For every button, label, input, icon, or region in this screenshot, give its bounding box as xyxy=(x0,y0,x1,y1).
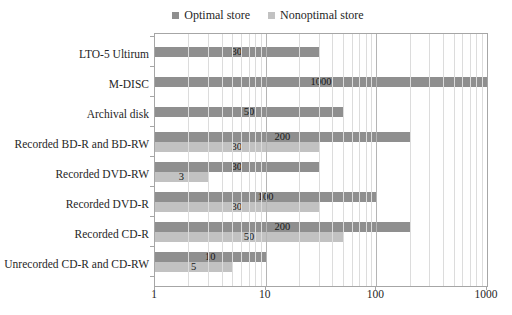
y-tick-mark xyxy=(150,276,154,277)
y-tick-mark xyxy=(150,66,154,67)
y-tick-mark xyxy=(150,36,154,37)
y-tick-mark xyxy=(150,246,154,247)
x-tick-mark xyxy=(265,286,266,290)
x-tick-mark xyxy=(375,286,376,290)
x-tick-mark xyxy=(486,286,487,290)
x-tick-mark xyxy=(154,286,155,290)
value-axis: 1101001000 xyxy=(0,0,512,315)
y-tick-mark xyxy=(150,216,154,217)
y-tick-mark xyxy=(150,156,154,157)
y-tick-mark xyxy=(150,186,154,187)
y-tick-mark xyxy=(150,96,154,97)
y-tick-mark xyxy=(150,126,154,127)
bar-chart-figure: Optimal store Nonoptimal store 301000502… xyxy=(0,0,512,315)
